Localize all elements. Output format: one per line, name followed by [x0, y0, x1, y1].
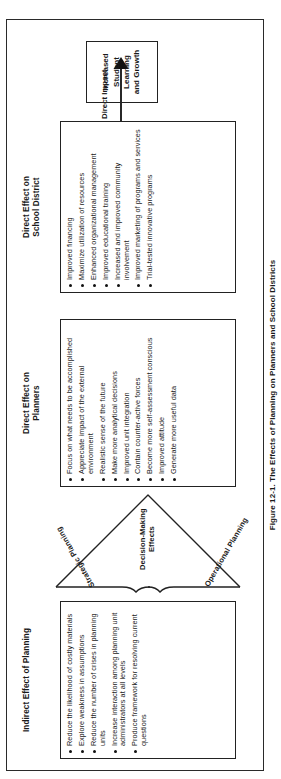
list-item: Focus on what needs to be accomplished [66, 325, 75, 482]
outcome-box: IncreasedStudentLearningand Growth [86, 41, 158, 103]
figure-caption: Figure 12-1. The Effects of Planning on … [268, 19, 277, 771]
direct-effect-planners-list: Focus on what needs to be accomplished A… [61, 320, 183, 486]
list-item: Improved financing [66, 127, 75, 288]
list-item: Enhanced organizational management [90, 127, 99, 288]
indirect-effect-list: Reduce the likelihood of costly material… [61, 602, 153, 758]
list-item: Trial-tested innovative programs [146, 127, 155, 288]
rotated-figure-canvas: Indirect Effect of Planning Reduce the l… [0, 0, 281, 779]
list-item: Appreciate impact of the external enviro… [78, 325, 96, 482]
outcome-text: IncreasedStudentLearningand Growth [101, 50, 143, 94]
direct-effect-planners-title: Direct Effect onPlanners [22, 327, 42, 479]
list-item: Produce framework for resolving current … [131, 607, 149, 754]
list-item: Increase interaction among planning unit… [111, 607, 129, 754]
direct-effect-district-title: Direct Effect onSchool District [22, 127, 42, 287]
list-item: Improved educational training [102, 127, 111, 288]
list-item: Maximize utilization of resources [78, 127, 87, 288]
list-item: Generate more useful data [170, 325, 179, 482]
list-item: Realistic sense of the future [99, 325, 108, 482]
list-item: Make more analytical decisions [111, 325, 120, 482]
list-item: Improved attitude [158, 325, 167, 482]
list-item: Contain counter-active forces [134, 325, 143, 482]
list-item: Improved unit integration [123, 325, 132, 482]
indirect-effect-title: Indirect Effect of Planning [22, 605, 32, 755]
planning-funnel: Strategic Planning Operational Planning … [52, 489, 244, 593]
direct-effect-district-list: Improved financing Maximize utilization … [61, 122, 159, 292]
figure-page: Indirect Effect of Planning Reduce the l… [0, 0, 281, 779]
list-item: Reduce the number of crises in planning … [90, 607, 108, 754]
indirect-effect-box: Reduce the likelihood of costly material… [60, 601, 236, 759]
decision-making-effects-label: Decision-MakingEffects [138, 508, 156, 570]
direct-effect-district-box: Improved financing Maximize utilization … [60, 121, 236, 293]
list-item: Improved marketing of programs and servi… [134, 127, 143, 288]
list-item: Explore weakness in assumptions [78, 607, 87, 754]
list-item: Become more self-assessment conscious [146, 325, 155, 482]
list-item: Reduce the likelihood of costly material… [66, 607, 75, 754]
list-item: Increased and improved community involve… [114, 127, 132, 288]
direct-effect-planners-box: Focus on what needs to be accomplished A… [60, 319, 236, 487]
